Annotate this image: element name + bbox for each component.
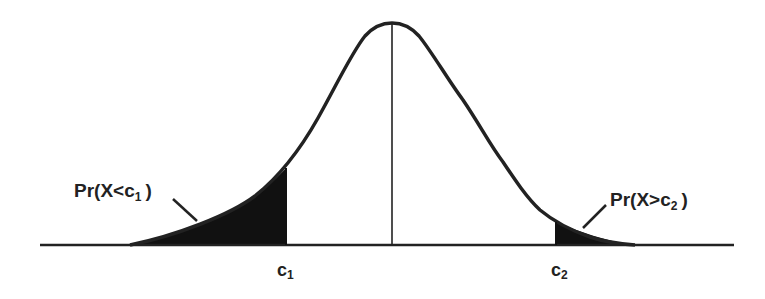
left-tail-leader-line (173, 199, 197, 221)
right-tail-leader-line (583, 205, 606, 228)
c2-axis-label: c2 (551, 260, 568, 282)
right-tail-shaded-area (556, 222, 635, 245)
right-tail-probability-label: Pr(X>c2) (610, 189, 688, 213)
c1-axis-label: c1 (277, 260, 294, 282)
bell-curve (130, 23, 635, 245)
left-tail-probability-label: Pr(X<c1) (74, 180, 152, 204)
normal-distribution-diagram: Pr(X<c1) Pr(X>c2) c1 c2 (0, 0, 765, 299)
left-tail-shaded-area (130, 168, 286, 245)
